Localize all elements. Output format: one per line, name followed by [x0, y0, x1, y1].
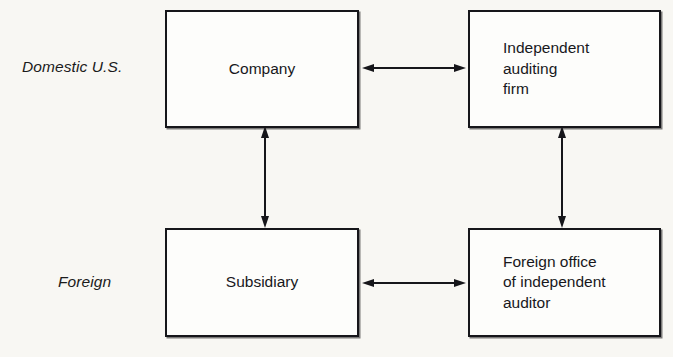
node-box-foreign-office: Foreign office of independent auditor	[468, 228, 661, 337]
double-headed-vertical-arrow-icon	[552, 126, 572, 228]
connector-subsidiary-to-foreign-office	[362, 273, 466, 293]
row-label-domestic: Domestic U.S.	[22, 58, 122, 76]
node-box-company: Company	[165, 10, 359, 128]
node-label-company: Company	[229, 59, 295, 80]
double-headed-horizontal-arrow-icon	[362, 58, 466, 78]
row-label-foreign: Foreign	[58, 273, 111, 291]
node-box-audit-firm: Independent auditing firm	[468, 10, 661, 128]
relationship-diagram: Domestic U.S. Foreign Company Independen…	[0, 0, 673, 357]
node-label-audit-firm: Independent auditing firm	[470, 38, 589, 100]
connector-company-to-audit-firm	[362, 58, 466, 78]
connector-company-to-subsidiary	[255, 126, 275, 228]
double-headed-horizontal-arrow-icon	[362, 273, 466, 293]
node-box-subsidiary: Subsidiary	[165, 228, 359, 337]
node-label-subsidiary: Subsidiary	[226, 272, 298, 293]
node-label-foreign-office: Foreign office of independent auditor	[470, 252, 606, 314]
connector-audit-firm-to-foreign-office	[552, 126, 572, 228]
double-headed-vertical-arrow-icon	[255, 126, 275, 228]
